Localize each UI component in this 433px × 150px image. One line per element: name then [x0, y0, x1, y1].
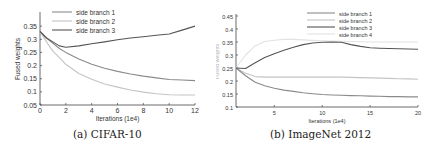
y-tick-label: 0.3 — [27, 36, 37, 43]
y-tick-label: 0.25 — [222, 66, 233, 72]
caption-imagenet: (b) ImageNet 2012 — [270, 128, 371, 140]
y-axis-label: Fused weights — [14, 37, 22, 80]
y-tick-label: 0.45 — [222, 14, 233, 20]
legend-label: side branch 3 — [339, 25, 372, 31]
chart-imagenet: 51015200.10.150.20.250.30.350.40.45Itera… — [216, 0, 433, 150]
y-tick-label: 0.05 — [23, 102, 37, 109]
y-tick-label: 0.35 — [222, 40, 233, 46]
y-tick-label: 0.1 — [27, 88, 37, 95]
line-chart-imagenet: 51015200.10.150.20.250.30.350.40.45Itera… — [216, 0, 433, 125]
legend-label: side branch 4 — [339, 32, 372, 38]
x-tick-label: 12 — [191, 107, 199, 114]
legend: side branch 1side branch 2side branch 3 — [52, 9, 115, 34]
y-tick-label: 0.4 — [225, 27, 233, 33]
series-line-side-branch-2 — [236, 68, 418, 79]
y-tick-label: 0.1 — [225, 105, 233, 111]
y-tick-label: 0.2 — [225, 79, 233, 85]
series-line-side-branch-3 — [236, 42, 418, 69]
x-axis-label: Iterations (1e4) — [96, 115, 140, 123]
x-tick-label: 4 — [90, 107, 94, 114]
caption-cifar10: (a) CIFAR-10 — [73, 128, 142, 140]
y-tick-label: 0.15 — [23, 75, 37, 82]
x-tick-label: 5 — [273, 110, 276, 116]
y-axis-label: Fused weights — [216, 44, 220, 80]
y-tick-label: 0.15 — [222, 92, 233, 98]
x-axis-label: Iterations (1e4) — [309, 118, 346, 124]
legend-label: side branch 2 — [339, 18, 372, 24]
x-tick-label: 0 — [38, 107, 42, 114]
y-tick-label: 0.25 — [23, 49, 37, 56]
series-line-side-branch-2 — [40, 31, 195, 95]
legend-label: side branch 3 — [76, 27, 115, 34]
chart-cifar10: 0246810120.050.10.150.20.250.30.35Iterat… — [0, 0, 216, 150]
x-tick-label: 20 — [415, 110, 421, 116]
series-line-side-branch-1 — [236, 68, 418, 97]
y-tick-label: 0.2 — [27, 62, 37, 69]
series-line-side-branch-4 — [236, 39, 418, 68]
x-tick-label: 8 — [141, 107, 145, 114]
legend: side branch 1side branch 2side branch 3s… — [307, 11, 372, 38]
legend-label: side branch 2 — [76, 18, 115, 25]
legend-label: side branch 1 — [339, 11, 372, 17]
line-chart-cifar10: 0246810120.050.10.150.20.250.30.35Iterat… — [0, 0, 216, 125]
y-tick-label: 0.35 — [23, 23, 37, 30]
series-line-side-branch-3 — [40, 26, 195, 47]
legend-label: side branch 1 — [76, 9, 115, 16]
series-line-side-branch-1 — [40, 31, 195, 80]
x-tick-label: 15 — [367, 110, 373, 116]
x-tick-label: 10 — [319, 110, 325, 116]
y-tick-label: 0.3 — [225, 53, 233, 59]
x-tick-label: 6 — [116, 107, 120, 114]
x-tick-label: 10 — [165, 107, 173, 114]
x-tick-label: 2 — [64, 107, 68, 114]
